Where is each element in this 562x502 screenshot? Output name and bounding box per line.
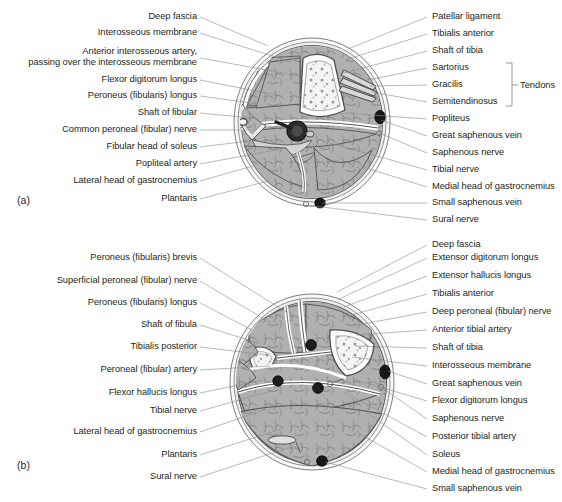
label-a-peroneus-fibularis-longus: Peroneus (fibularis) longus xyxy=(88,90,197,101)
label-b-small-saphenous-vein: Small saphenous vein xyxy=(432,483,522,494)
label-a-medial-head-of-gastrocnemius: Medial head of gastrocnemius xyxy=(432,181,555,192)
label-a-anterior-interosseous-artery: Anterior interosseous artery, xyxy=(82,46,197,57)
label-b-plantaris: Plantaris xyxy=(161,449,197,460)
label-b-shaft-of-fibula: Shaft of fibula xyxy=(141,319,197,330)
label-b-tibialis-anterior: Tibialis anterior xyxy=(432,288,494,299)
label-a-common-peroneal-nerve: Common peroneal (fibular) nerve xyxy=(62,124,197,135)
label-b-flexor-hallucis-longus: Flexor hallucis longus xyxy=(109,387,197,398)
label-a-tibialis-anterior: Tibialis anterior xyxy=(432,28,494,39)
tendons-bracket-label: Tendons xyxy=(520,80,555,90)
label-a-patellar-ligament: Patellar ligament xyxy=(432,11,500,22)
label-b-anterior-tibial-artery: Anterior tibial artery xyxy=(432,324,512,335)
label-b-tibialis-posterior: Tibialis posterior xyxy=(131,341,197,352)
label-a-gracilis: Gracilis xyxy=(432,79,463,90)
label-a-semitendinosus: Semitendinosus xyxy=(432,96,497,107)
label-b-flexor-digitorum-longus: Flexor digitorum longus xyxy=(432,395,527,406)
label-a-flexor-digitorum-longus: Flexor digitorum longus xyxy=(102,74,197,85)
label-b-lateral-head-of-gastrocnemius: Lateral head of gastrocnemius xyxy=(73,426,197,437)
label-a-anterior-interosseous-artery-line2: passing over the interosseous membrane xyxy=(28,57,197,68)
panel-b-letter: (b) xyxy=(17,459,30,471)
label-a-sural-nerve: Sural nerve xyxy=(432,214,479,225)
label-a-shaft-of-tibia: Shaft of tibia xyxy=(432,45,483,56)
label-b-medial-head-of-gastrocnemius: Medial head of gastrocnemius xyxy=(432,466,555,477)
label-a-tibial-nerve: Tibial nerve xyxy=(432,164,479,175)
label-b-superficial-peroneal-nerve: Superficial peroneal (fibular) nerve xyxy=(57,275,197,286)
label-a-great-saphenous-vein: Great saphenous vein xyxy=(432,130,522,141)
label-a-lateral-head-of-gastrocnemius: Lateral head of gastrocnemius xyxy=(73,175,197,186)
label-b-sural-nerve: Sural nerve xyxy=(150,471,197,482)
label-b-saphenous-nerve: Saphenous nerve xyxy=(432,413,504,424)
label-b-peroneus-fibularis-longus: Peroneus (fibularis) longus xyxy=(88,297,197,308)
anatomy-figure: (a) Deep fascia Interosseous membrane An… xyxy=(0,0,562,502)
panel-a-letter: (a) xyxy=(17,194,30,206)
label-b-interosseous-membrane: Interosseous membrane xyxy=(432,360,531,371)
label-a-saphenous-nerve: Saphenous nerve xyxy=(432,147,504,158)
label-a-sartorius: Sartorius xyxy=(432,62,469,73)
label-a-small-saphenous-vein: Small saphenous vein xyxy=(432,197,522,208)
label-a-popliteal-artery: Popliteal artery xyxy=(136,158,197,169)
label-b-extensor-hallucis-longus: Extensor hallucis longus xyxy=(432,270,531,281)
label-b-peroneus-fibularis-brevis: Peroneus (fibularis) brevis xyxy=(90,252,197,263)
label-a-shaft-of-fibular: Shaft of fibular xyxy=(138,107,197,118)
label-b-soleus: Soleus xyxy=(432,449,460,460)
label-a-plantaris: Plantaris xyxy=(161,193,197,204)
label-a-deep-fascia: Deep fascia xyxy=(148,11,197,22)
label-b-great-saphenous-vein: Great saphenous vein xyxy=(432,378,522,389)
label-b-deep-fascia: Deep fascia xyxy=(432,239,481,250)
label-b-extensor-digitorum-longus: Extensor digitorum longus xyxy=(432,252,538,263)
label-a-popliteus: Popliteus xyxy=(432,113,470,124)
label-b-shaft-of-tibia: Shaft of tibia xyxy=(432,342,483,353)
label-a-fibular-head-of-soleus: Fibular head of soleus xyxy=(107,141,197,152)
label-a-interosseous-membrane: Interosseous membrane xyxy=(98,27,197,38)
label-b-tibial-nerve: Tibial nerve xyxy=(150,405,197,416)
label-b-peroneal-fibular-artery: Peroneal (fibular) artery xyxy=(101,364,197,375)
label-b-posterior-tibial-artery: Posterior tibial artery xyxy=(432,431,516,442)
label-b-deep-peroneal-nerve: Deep peroneal (fibular) nerve xyxy=(432,306,551,317)
